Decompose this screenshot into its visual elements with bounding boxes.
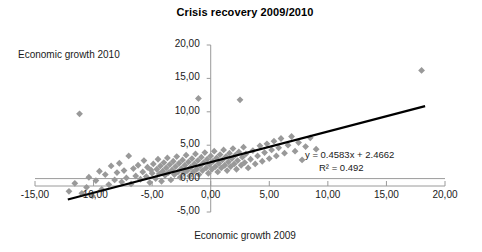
data-point — [141, 157, 148, 164]
y-tick-label: 0,00 — [150, 172, 200, 183]
data-point — [164, 154, 171, 161]
data-point — [76, 110, 83, 117]
data-point — [288, 133, 295, 140]
y-tick-label: 15,00 — [150, 71, 200, 82]
x-tick-label: -15,00 — [10, 189, 60, 200]
data-point — [108, 163, 115, 170]
data-point — [254, 152, 261, 159]
data-point — [201, 149, 208, 156]
data-point — [281, 150, 288, 157]
data-point — [114, 169, 121, 176]
y-tick-label: 5,00 — [150, 138, 200, 149]
data-point — [139, 169, 146, 176]
scatter-plot-area — [0, 0, 482, 252]
data-point — [252, 161, 259, 168]
data-point — [173, 153, 180, 160]
data-point — [271, 138, 278, 145]
chart-canvas: Crisis recovery 2009/2010 Economic growt… — [0, 0, 482, 252]
data-point — [211, 148, 218, 155]
data-point — [116, 160, 123, 167]
data-point — [102, 171, 109, 178]
data-point — [266, 155, 273, 162]
data-point — [292, 148, 299, 155]
data-point — [230, 145, 237, 152]
data-point — [85, 174, 92, 181]
equation-text: y = 0.4583x + 2.4662 — [305, 149, 394, 160]
tick-marks — [35, 45, 445, 212]
data-point — [261, 149, 268, 156]
data-point — [192, 150, 199, 157]
x-tick-label: -10,00 — [69, 189, 119, 200]
data-point — [220, 146, 227, 153]
data-point — [259, 158, 266, 165]
data-point — [240, 144, 247, 151]
data-point — [150, 161, 157, 168]
data-point — [125, 152, 132, 159]
x-tick-label: 0,00 — [186, 189, 236, 200]
data-point — [247, 156, 254, 163]
r-squared-text: R² = 0.492 — [305, 161, 394, 174]
x-tick-label: 20,00 — [420, 189, 470, 200]
x-tick-label: 15,00 — [361, 189, 411, 200]
axis-lines — [35, 45, 445, 212]
y-tick-label: -5,00 — [150, 205, 200, 216]
data-point — [237, 96, 244, 103]
regression-equation-annotation: y = 0.4583x + 2.4662 R² = 0.492 — [305, 148, 394, 174]
y-tick-label: 20,00 — [150, 38, 200, 49]
x-tick-label: 5,00 — [244, 189, 294, 200]
data-point — [111, 177, 118, 184]
data-point — [105, 181, 112, 188]
data-point — [121, 167, 128, 174]
x-tick-label: 10,00 — [303, 189, 353, 200]
x-tick-label: -5,00 — [127, 189, 177, 200]
data-point-group — [66, 67, 425, 199]
data-point — [245, 165, 252, 172]
data-point — [278, 135, 285, 142]
y-tick-label: 10,00 — [150, 105, 200, 116]
data-point — [123, 175, 130, 182]
data-point — [183, 152, 190, 159]
data-point — [155, 156, 162, 163]
data-point — [96, 168, 103, 175]
data-point — [195, 95, 202, 102]
data-point — [273, 152, 280, 159]
data-point — [418, 67, 425, 74]
